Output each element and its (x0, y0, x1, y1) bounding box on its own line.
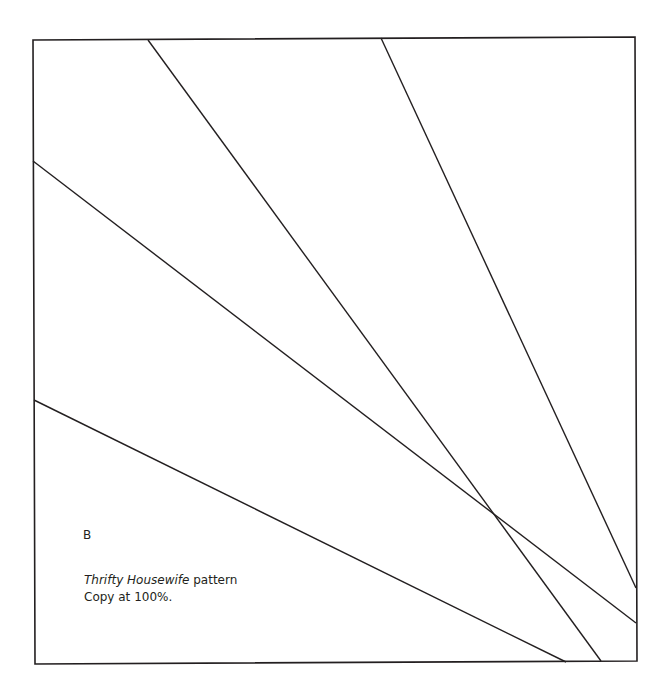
square-border (33, 37, 637, 664)
seam-line-4 (34, 400, 566, 662)
seam-line-2 (381, 38, 636, 588)
caption: Thrifty Housewife pattern Copy at 100%. (84, 572, 237, 606)
caption-suffix: pattern (189, 573, 237, 587)
pattern-name: Thrifty Housewife (84, 573, 189, 587)
copy-instruction: Copy at 100%. (84, 589, 237, 606)
caption-line-1: Thrifty Housewife pattern (84, 572, 237, 589)
piece-label: B (83, 527, 91, 544)
